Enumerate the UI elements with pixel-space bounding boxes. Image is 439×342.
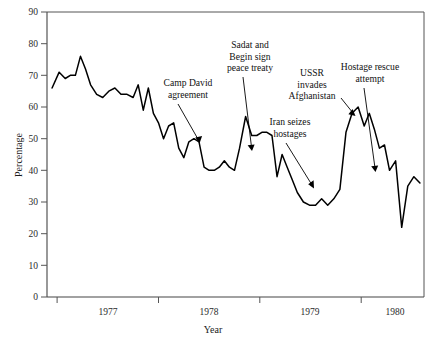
y-tick-label-30: 30 — [29, 197, 39, 207]
y-tick-label-0: 0 — [33, 292, 38, 302]
annotation-ussr-afghanistan-line-2: invades — [297, 79, 327, 90]
annotation-ussr-afghanistan-line-1: USSR — [300, 67, 325, 78]
annotation-hostage-rescue-line-2: attempt — [356, 73, 385, 84]
annotation-iran-hostages-line-1: Iran seizes — [270, 116, 311, 127]
chart-figure: 0 10 20 30 40 50 60 70 80 90 Percentage … — [0, 0, 439, 342]
y-tick-label-40: 40 — [29, 166, 39, 176]
x-tick-label-1978: 1978 — [200, 307, 219, 317]
line-chart: 0 10 20 30 40 50 60 70 80 90 Percentage … — [0, 0, 439, 342]
annotation-hostage-rescue-line-1: Hostage rescue — [341, 61, 399, 72]
annotation-sadat-begin-line-3: peace treaty — [227, 62, 273, 73]
annotation-sadat-begin-line-1: Sadat and — [231, 39, 269, 50]
x-tick-label-1980: 1980 — [386, 307, 405, 317]
annotation-camp-david-line-2: agreement — [168, 89, 208, 100]
y-tick-label-50: 50 — [29, 134, 39, 144]
x-tick-label-1979: 1979 — [301, 307, 320, 317]
y-axis-title: Percentage — [13, 133, 24, 177]
annotation-sadat-begin-line-2: Begin sign — [229, 51, 271, 62]
x-axis-title: Year — [204, 324, 223, 335]
x-tick-label-1977: 1977 — [99, 307, 118, 317]
y-tick-label-20: 20 — [29, 229, 39, 239]
annotation-camp-david-line-1: Camp David — [164, 77, 213, 88]
chart-background — [0, 0, 439, 342]
annotation-iran-hostages-line-2: hostages — [273, 128, 306, 139]
y-tick-label-80: 80 — [29, 39, 39, 49]
annotation-ussr-afghanistan-line-3: Afghanistan — [289, 90, 336, 101]
y-tick-label-90: 90 — [29, 7, 39, 17]
y-tick-label-10: 10 — [29, 261, 39, 271]
y-tick-label-70: 70 — [29, 71, 39, 81]
y-tick-label-60: 60 — [29, 102, 39, 112]
